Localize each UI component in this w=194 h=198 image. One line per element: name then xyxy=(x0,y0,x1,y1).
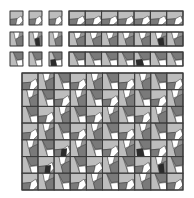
grid-cell xyxy=(167,157,183,174)
grid-cell xyxy=(70,157,86,174)
grid-cell xyxy=(135,173,151,190)
white-square xyxy=(111,132,119,140)
grid-cell xyxy=(22,173,38,190)
grid-cell xyxy=(54,140,70,157)
grid-cell xyxy=(54,173,70,190)
strip-tile xyxy=(150,11,166,25)
grid-cell xyxy=(103,123,119,140)
strip-tile xyxy=(102,11,118,25)
grid-cell xyxy=(151,123,167,140)
grid-cell xyxy=(103,157,119,174)
white-square xyxy=(159,132,167,140)
grid-cell xyxy=(119,157,135,174)
grid-cell xyxy=(135,157,151,174)
tiling-canvas xyxy=(0,0,194,198)
grid-cell xyxy=(151,106,167,123)
white-square xyxy=(30,166,38,174)
grid-cell xyxy=(38,157,54,174)
grid-cell xyxy=(70,90,86,107)
grid-cell xyxy=(70,106,86,123)
strip-tile xyxy=(69,52,85,66)
grid-cell xyxy=(135,123,151,140)
white-square xyxy=(77,60,85,66)
strip-tile xyxy=(134,11,150,25)
grid-cell xyxy=(151,157,167,174)
tile-strip xyxy=(69,11,183,25)
strip-tile xyxy=(102,52,118,66)
grid-cell xyxy=(38,90,54,107)
strip-tile xyxy=(150,32,166,46)
grid-cell xyxy=(22,123,38,140)
grid-cell xyxy=(70,123,86,140)
grid-cell xyxy=(135,140,151,157)
grid-cell xyxy=(86,157,102,174)
white-square xyxy=(127,116,135,124)
strip-tile xyxy=(134,52,150,66)
grid-cell xyxy=(167,123,183,140)
grid-cell xyxy=(119,140,135,157)
grid-cell xyxy=(38,173,54,190)
strip-tile xyxy=(69,32,85,46)
tile-strip xyxy=(69,52,183,66)
grid-cell xyxy=(135,73,151,90)
single-tile xyxy=(49,11,62,25)
white-square xyxy=(78,116,86,124)
grid-cell xyxy=(167,90,183,107)
white-square xyxy=(110,60,118,66)
grid-cell xyxy=(167,106,183,123)
grid-cell xyxy=(38,106,54,123)
grid-cell xyxy=(70,73,86,90)
grid-cell xyxy=(167,140,183,157)
grid-cell xyxy=(22,106,38,123)
single-tile xyxy=(10,11,23,25)
white-square xyxy=(159,182,167,190)
single-tile xyxy=(10,32,23,46)
grid-cell xyxy=(103,90,119,107)
white-square xyxy=(175,60,183,66)
strip-tile xyxy=(134,32,150,46)
grid-cell xyxy=(151,173,167,190)
grid-cell xyxy=(38,123,54,140)
white-square xyxy=(30,116,38,124)
strip-tile xyxy=(167,11,183,25)
grid-cell xyxy=(54,90,70,107)
grid-cell xyxy=(86,123,102,140)
small-row-3 xyxy=(10,52,183,66)
grid-cell xyxy=(103,173,119,190)
grid-cell xyxy=(86,73,102,90)
strip-tile xyxy=(102,32,118,46)
white-square xyxy=(94,99,102,107)
white-square xyxy=(127,166,135,174)
white-square xyxy=(175,116,183,124)
grid-cell xyxy=(86,140,102,157)
dark-patch xyxy=(61,148,67,156)
grid-cell xyxy=(86,90,102,107)
white-square xyxy=(46,99,54,107)
grid-cell xyxy=(119,173,135,190)
white-square xyxy=(111,82,119,90)
white-square xyxy=(78,166,86,174)
grid-cell xyxy=(38,73,54,90)
strip-tile xyxy=(85,52,101,66)
white-square xyxy=(143,99,151,107)
grid-cell xyxy=(54,157,70,174)
grid-cell xyxy=(70,173,86,190)
single-tile xyxy=(10,52,23,66)
grid-cell xyxy=(135,106,151,123)
large-grid xyxy=(22,73,183,190)
small-row-2 xyxy=(10,32,183,46)
grid-cell xyxy=(54,123,70,140)
white-square xyxy=(111,182,119,190)
grid-cell xyxy=(22,90,38,107)
grid-cell xyxy=(103,140,119,157)
white-square xyxy=(94,149,102,157)
strip-tile xyxy=(167,32,183,46)
white-square xyxy=(46,149,54,157)
grid-cell xyxy=(22,157,38,174)
grid-cell xyxy=(151,140,167,157)
strip-tile xyxy=(150,52,166,66)
small-row-1 xyxy=(10,11,183,25)
single-tile xyxy=(49,52,62,66)
grid-cell xyxy=(119,123,135,140)
grid-cell xyxy=(86,173,102,190)
